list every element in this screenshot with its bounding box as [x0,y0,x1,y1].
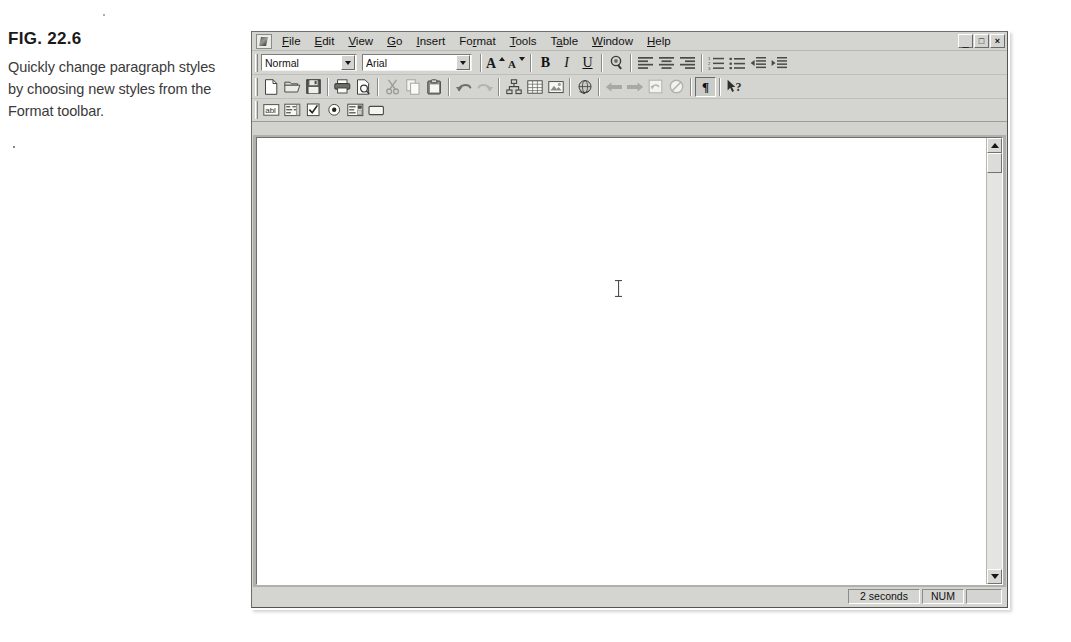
close-button[interactable]: × [990,34,1005,48]
figure-caption-block: FIG. 22.6 Quickly change paragraph style… [8,30,223,122]
save-disk-button[interactable] [303,77,324,97]
toolbar-separator [690,78,692,96]
scroll-thumb[interactable] [987,153,1002,173]
text-box-button[interactable]: abl [261,100,282,120]
menu-item-edit[interactable]: Edit [308,33,342,50]
back-button[interactable] [603,77,624,97]
toolbar-separator [598,78,600,96]
menu-item-format[interactable]: Format [452,33,502,50]
insert-table-button[interactable] [524,77,545,97]
minimize-icon: _ [959,38,972,47]
caption-speck [13,146,15,148]
italic-button[interactable]: I [556,53,577,73]
menu-item-table[interactable]: Table [544,33,586,50]
paragraph-mark-icon: ¶ [702,80,709,93]
web-globe-button[interactable] [574,77,595,97]
toolbar-separator [569,78,571,96]
menu-item-insert[interactable]: Insert [409,33,452,50]
restore-button[interactable]: □ [974,34,989,48]
toolbar-separator [601,54,603,72]
cut-button[interactable] [382,77,403,97]
help-button[interactable]: ? [724,77,745,97]
font-name-dropdown[interactable]: Arial [362,54,472,71]
check-box-button[interactable] [303,100,324,120]
font-color-button[interactable] [606,53,627,73]
command-button-button[interactable] [366,100,387,120]
style-dropdown-value: Normal [262,57,341,69]
status-bar: 2 seconds NUM [253,587,1006,606]
svg-text:A: A [486,56,497,71]
numbered-list-button[interactable]: 123 [706,53,727,73]
align-left-button[interactable] [635,53,656,73]
standard-toolbar: ¶ ? [252,75,1007,99]
scroll-down-arrow[interactable] [987,569,1002,584]
bulleted-list-button[interactable] [727,53,748,73]
font-dropdown-value: Arial [363,57,456,69]
menu-item-help[interactable]: Help [640,33,678,50]
document-app-icon[interactable] [256,34,272,49]
forward-button[interactable] [624,77,645,97]
show-paragraph-marks-button[interactable]: ¶ [695,77,716,97]
menu-item-view[interactable]: View [341,33,380,50]
decrease-font-size-button[interactable]: A [506,53,527,73]
menu-item-tools[interactable]: Tools [503,33,544,50]
insert-picture-button[interactable] [545,77,566,97]
document-region [253,135,1006,587]
page-speck [103,14,105,16]
toolbar-separator [448,78,450,96]
drop-down-box-button[interactable] [345,100,366,120]
toolbar-grip[interactable] [255,78,258,96]
toolbar-grip[interactable] [255,101,258,119]
status-time: 2 seconds [848,589,920,604]
close-icon: × [991,35,1004,47]
open-folder-button[interactable] [282,77,303,97]
toolbar-grip[interactable] [255,54,258,72]
svg-text:?: ? [735,80,741,94]
formatting-toolbar: Normal Arial A A B I U [252,51,1007,75]
paste-button[interactable] [424,77,445,97]
decrease-indent-button[interactable] [748,53,769,73]
toolbar-separator [480,54,482,72]
scrolling-text-button[interactable] [282,100,303,120]
refresh-button[interactable] [645,77,666,97]
svg-text:abl: abl [265,106,276,115]
menu-bar: File Edit View Go Insert Format Tools Ta… [252,32,1007,51]
chevron-down-icon[interactable] [341,55,355,70]
underline-button[interactable]: U [577,53,598,73]
toolbar-separator [701,54,703,72]
toolbar-separator [498,78,500,96]
copy-button[interactable] [403,77,424,97]
minimize-button[interactable]: _ [958,34,973,48]
restore-icon: □ [975,35,988,47]
undo-button[interactable] [453,77,474,97]
menu-item-file[interactable]: File [275,33,308,50]
insert-hyperlink-button[interactable] [503,77,524,97]
toolbar-separator [377,78,379,96]
document-frame [256,137,1003,585]
menu-item-go[interactable]: Go [380,33,409,50]
scroll-up-arrow[interactable] [987,138,1002,153]
redo-button[interactable] [474,77,495,97]
figure-number: FIG. 22.6 [8,30,223,49]
option-button-button[interactable] [324,100,345,120]
stop-button[interactable] [666,77,687,97]
application-window: File Edit View Go Insert Format Tools Ta… [251,31,1008,608]
new-document-button[interactable] [261,77,282,97]
vertical-scrollbar[interactable] [986,138,1002,584]
print-button[interactable] [332,77,353,97]
print-preview-button[interactable] [353,77,374,97]
align-center-button[interactable] [656,53,677,73]
toolbar-separator [530,54,532,72]
document-page[interactable] [257,138,986,584]
increase-indent-button[interactable] [769,53,790,73]
style-dropdown[interactable]: Normal [261,54,357,71]
align-right-button[interactable] [677,53,698,73]
window-controls: _ □ × [958,34,1005,48]
menu-item-window[interactable]: Window [585,33,640,50]
bold-button[interactable]: B [535,53,556,73]
status-end-pane [966,589,1002,604]
forms-toolbar: abl [252,99,1007,122]
chevron-down-icon[interactable] [456,55,470,70]
increase-font-size-button[interactable]: A [485,53,506,73]
svg-text:3: 3 [708,65,711,69]
